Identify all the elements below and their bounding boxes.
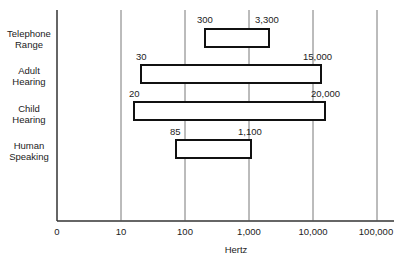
bar-high-label: 1,100 xyxy=(238,126,262,137)
category-label-adult-hearing: Adult Hearing xyxy=(2,65,56,87)
category-label-telephone-range: Telephone Range xyxy=(2,28,56,50)
label-line: Hearing xyxy=(2,114,56,125)
chart-axes xyxy=(0,0,402,259)
x-tick-10: 10 xyxy=(116,226,127,237)
bar-low-label: 30 xyxy=(136,51,147,62)
bar-high-label: 20,000 xyxy=(311,88,340,99)
label-line: Hearing xyxy=(2,76,56,87)
bar-telephone-range xyxy=(204,28,270,48)
x-tick-100: 100 xyxy=(177,226,193,237)
label-line: Range xyxy=(2,39,56,50)
bar-adult-hearing xyxy=(140,64,322,84)
bar-high-label: 3,300 xyxy=(255,14,279,25)
bar-human-speaking xyxy=(175,139,252,159)
label-line: Human xyxy=(2,140,56,151)
category-label-child-hearing: Child Hearing xyxy=(2,103,56,125)
label-line: Child xyxy=(2,103,56,114)
x-tick-0: 0 xyxy=(54,226,59,237)
hertz-range-chart: Telephone Range Adult Hearing Child Hear… xyxy=(0,0,402,259)
bar-low-label: 85 xyxy=(170,126,181,137)
x-tick-100000: 100,000 xyxy=(359,226,393,237)
label-line: Telephone xyxy=(2,28,56,39)
x-tick-1000: 1,000 xyxy=(237,226,261,237)
x-tick-10000: 10,000 xyxy=(298,226,327,237)
bar-low-label: 300 xyxy=(197,14,213,25)
label-line: Adult xyxy=(2,65,56,76)
x-axis-title: Hertz xyxy=(225,244,248,255)
bar-high-label: 15,000 xyxy=(303,51,332,62)
bar-child-hearing xyxy=(133,101,326,121)
label-line: Speaking xyxy=(2,151,56,162)
bar-low-label: 20 xyxy=(129,88,140,99)
category-label-human-speaking: Human Speaking xyxy=(2,140,56,162)
